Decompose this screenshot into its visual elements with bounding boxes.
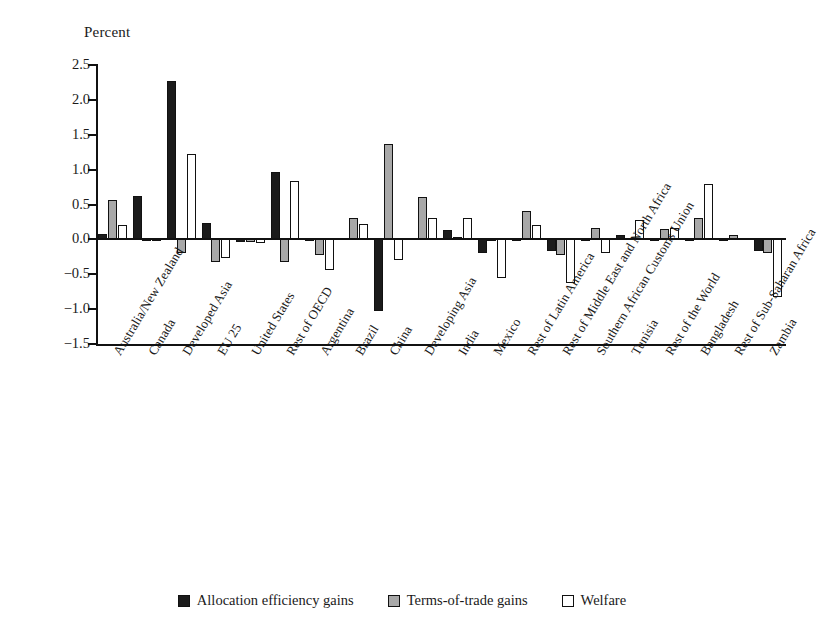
legend: Allocation efficiency gainsTerms-of-trad…	[0, 592, 804, 609]
x-tick-label: Mexico	[490, 315, 524, 358]
legend-item[interactable]: Welfare	[562, 592, 627, 609]
x-tick-label: Canada	[145, 316, 179, 358]
filled-gray-swatch	[388, 595, 400, 607]
x-tick-label: Brazil	[352, 322, 382, 358]
legend-item[interactable]: Allocation efficiency gains	[178, 592, 354, 609]
legend-label: Terms-of-trade gains	[407, 592, 528, 609]
x-tick-label: EU 25	[214, 321, 245, 358]
legend-item[interactable]: Terms-of-trade gains	[388, 592, 528, 609]
x-tick-label: Australia/New Zealand	[110, 245, 187, 359]
legend-label: Allocation efficiency gains	[197, 592, 354, 609]
x-tick-label: Tunisia	[628, 316, 662, 358]
x-tick-label: China	[386, 323, 416, 358]
filled-black-swatch	[178, 595, 190, 607]
outline-white-swatch	[562, 595, 574, 607]
x-tick-label: Zambia	[766, 315, 800, 358]
x-tick-label: India	[455, 327, 483, 359]
legend-label: Welfare	[581, 592, 627, 609]
